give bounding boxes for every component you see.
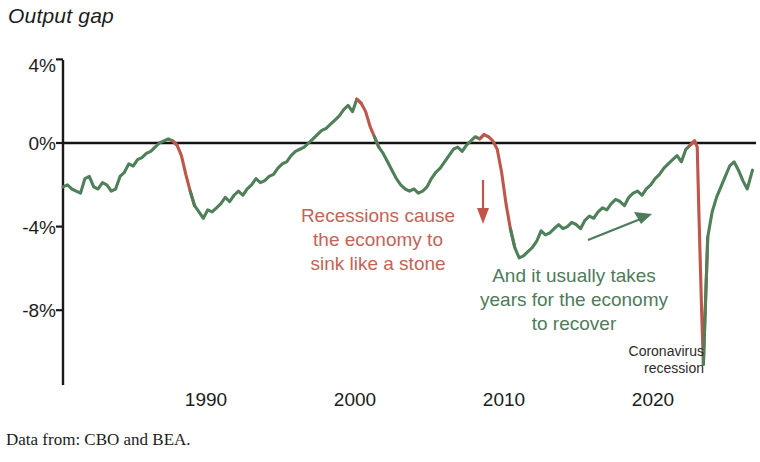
x-tick-label-2000: 2000 — [320, 389, 390, 411]
annotation-recessions-line2: the economy to — [288, 228, 468, 252]
annotation-coronavirus-line2: recession — [556, 360, 704, 377]
green-up-right-arrow-head-icon — [634, 212, 652, 224]
expansion-segment — [703, 162, 752, 365]
red-down-arrow-head-icon — [477, 208, 489, 224]
annotation-coronavirus-recession: Coronavirus recession — [556, 343, 704, 377]
annotation-recessions-line3: sink like a stone — [288, 252, 468, 276]
y-tick-label-minus8: -8% — [0, 300, 56, 322]
expansion-segment — [190, 99, 361, 218]
y-tick-label-0: 0% — [0, 133, 56, 155]
y-tick-label-4: 4% — [0, 55, 56, 77]
source-note: Data from: CBO and BEA. — [6, 430, 191, 450]
annotation-recessions: Recessions cause the economy to sink lik… — [288, 204, 468, 276]
x-tick-label-2010: 2010 — [469, 389, 539, 411]
output-gap-figure: Output gap 4% 0% -4% -8% 1990 2000 2010 … — [0, 0, 760, 462]
annotation-recessions-line1: Recessions cause — [288, 204, 468, 228]
annotation-recovery-line1: And it usually takes — [462, 264, 686, 288]
annotation-recovery-line2: years for the economy — [462, 288, 686, 312]
expansion-segment — [63, 139, 177, 193]
x-tick-label-1990: 1990 — [171, 389, 241, 411]
x-tick-label-2020: 2020 — [618, 389, 688, 411]
y-tick-label-minus4: -4% — [0, 217, 56, 239]
expansion-segment — [510, 141, 694, 258]
annotation-coronavirus-line1: Coronavirus — [556, 343, 704, 360]
annotation-recovery: And it usually takes years for the econo… — [462, 264, 686, 336]
annotation-recovery-line3: to recover — [462, 312, 686, 336]
